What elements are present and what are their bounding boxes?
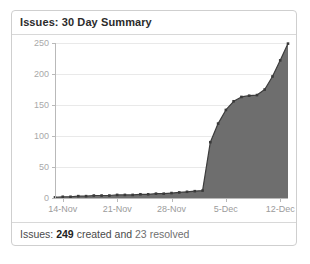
y-tick-label: 50 — [39, 162, 49, 172]
data-point-marker — [248, 94, 251, 97]
data-point-marker — [271, 75, 274, 78]
screenshot-root: Issues: 30 Day Summary 05010015020025014… — [0, 0, 310, 264]
data-point-marker — [194, 190, 197, 193]
issues-summary-panel: Issues: 30 Day Summary 05010015020025014… — [11, 10, 297, 246]
data-point-marker — [139, 193, 142, 196]
data-point-marker — [93, 194, 96, 197]
data-point-marker — [100, 194, 103, 197]
data-point-marker — [77, 195, 80, 198]
data-point-marker — [124, 194, 127, 197]
data-point-marker — [178, 191, 181, 194]
data-point-marker — [85, 195, 88, 198]
data-point-marker — [217, 122, 220, 125]
data-point-marker — [147, 193, 150, 196]
x-tick-label: 21-Nov — [103, 204, 133, 214]
issues-area-chart: 05010015020025014-Nov21-Nov28-Nov5-Dec12… — [12, 35, 297, 224]
data-point-marker — [209, 141, 212, 144]
panel-footer: Issues: 249 created and 23 resolved — [12, 222, 296, 245]
resolved-count: 23 — [135, 228, 147, 240]
panel-header: Issues: 30 Day Summary — [12, 11, 296, 35]
data-point-marker — [131, 194, 134, 197]
data-point-marker — [201, 189, 204, 192]
y-tick-label: 200 — [34, 69, 49, 79]
data-point-marker — [108, 194, 111, 197]
data-point-marker — [61, 195, 64, 198]
data-point-marker — [170, 192, 173, 195]
data-point-marker — [225, 109, 228, 112]
data-point-marker — [287, 42, 290, 45]
y-tick-label: 100 — [34, 131, 49, 141]
series-area-fill — [55, 44, 288, 198]
status-summary: Issues: 249 created and 23 resolved — [20, 228, 189, 240]
y-tick-label: 0 — [44, 193, 49, 203]
data-point-marker — [232, 100, 235, 103]
data-point-marker — [263, 88, 266, 91]
data-point-marker — [240, 96, 243, 99]
x-tick-label: 12-Dec — [266, 204, 296, 214]
y-tick-label: 250 — [34, 38, 49, 48]
footer-prefix: Issues: — [20, 228, 53, 240]
data-point-marker — [186, 191, 189, 194]
data-point-marker — [155, 192, 158, 195]
x-tick-label: 28-Nov — [157, 204, 187, 214]
created-count: 249 — [56, 228, 74, 240]
y-tick-label: 150 — [34, 100, 49, 110]
data-point-marker — [279, 59, 282, 62]
data-point-marker — [69, 195, 72, 198]
data-point-marker — [256, 94, 259, 97]
chart-svg: 05010015020025014-Nov21-Nov28-Nov5-Dec12… — [12, 35, 297, 224]
data-point-marker — [162, 192, 165, 195]
footer-middle: created and — [77, 228, 132, 240]
page-title: Issues: 30 Day Summary — [20, 16, 152, 28]
x-tick-label: 5-Dec — [214, 204, 239, 214]
x-tick-label: 14-Nov — [48, 204, 78, 214]
data-point-marker — [116, 194, 119, 197]
footer-suffix: resolved — [150, 228, 190, 240]
series-layer — [54, 42, 290, 198]
